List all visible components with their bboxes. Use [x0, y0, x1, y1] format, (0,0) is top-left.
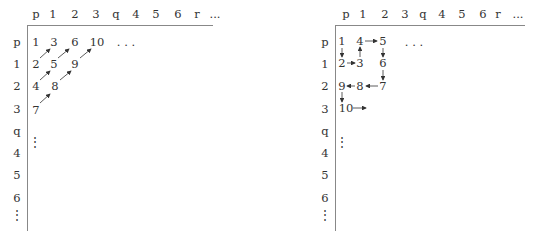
diagonal-enumeration-grid: p 1 2 3 q 4 5 6 r ... p 1 2 3 q 4 5 6 ⋮ … [0, 0, 250, 236]
square-enumeration-grid: p 1 2 3 q 4 5 6 r ... p 1 2 3 q 4 5 6 ⋮ … [290, 0, 535, 236]
shell-arrows [290, 0, 535, 236]
diagonal-arrows [0, 0, 250, 236]
